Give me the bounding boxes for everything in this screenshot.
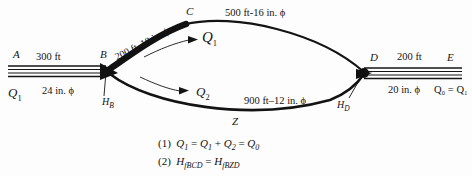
- segment-bzd-label: 900 ft–12 in. ϕ: [244, 96, 306, 107]
- pipe-bzd: [110, 74, 364, 110]
- equations-block: (1) Q1 = Q1 + Q2 = Q0 (2) HfBCD = HfBZD: [158, 136, 259, 172]
- node-label-c: C: [186, 6, 193, 17]
- segment-de-flow: Q₀ = Q₁: [434, 85, 468, 96]
- flow-label-q2: Q2: [196, 85, 210, 101]
- flow-label-q1: Q1: [202, 30, 217, 48]
- segment-de-length: 200 ft: [397, 52, 422, 63]
- junction-node-d: [356, 68, 372, 79]
- pipe-ab: [8, 66, 106, 77]
- node-label-a: A: [13, 49, 20, 60]
- node-label-b: B: [100, 49, 107, 60]
- segment-ab-flow: Q1: [8, 86, 22, 102]
- equation-2: (2) HfBCD = HfBZD: [158, 154, 259, 172]
- pipe-network-figure: A B C D E Z 300 ft 24 in. ϕ Q1 200 ft–18…: [0, 0, 472, 176]
- segment-ab-diameter: 24 in. ϕ: [42, 86, 74, 97]
- node-label-z: Z: [232, 116, 238, 127]
- head-label-hb: HB: [102, 97, 114, 110]
- pipe-bc-thick: [107, 24, 186, 71]
- head-label-hd: HD: [337, 100, 350, 113]
- equation-1: (1) Q1 = Q1 + Q2 = Q0: [158, 136, 259, 154]
- segment-de-diameter: 20 in. ϕ: [388, 85, 420, 96]
- node-label-d: D: [370, 52, 378, 63]
- flow-arrow-q2: [140, 77, 189, 95]
- segment-ab-length: 300 ft: [36, 52, 61, 63]
- pipe-de: [364, 68, 462, 79]
- segment-cd-label: 500 ft-16 in. ϕ: [225, 8, 285, 19]
- node-label-e: E: [447, 52, 454, 63]
